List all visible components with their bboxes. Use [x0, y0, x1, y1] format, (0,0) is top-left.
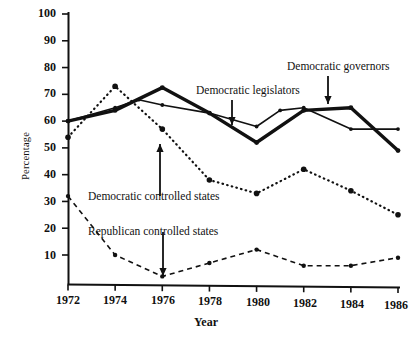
arrow-democratic-governors	[324, 76, 331, 104]
y-tick-label-10: 10	[44, 248, 56, 263]
annotation-democratic-governors: Democratic governors	[287, 60, 390, 72]
chart-plot-area	[0, 0, 415, 337]
y-tick-label-100: 100	[38, 6, 56, 21]
y-tick-label-30: 30	[44, 194, 56, 209]
y-tick-label-40: 40	[44, 167, 56, 182]
arrow-democratic-legislators	[228, 100, 235, 125]
y-tick-label-80: 80	[44, 60, 56, 75]
arrow-republican-controlled-states	[159, 232, 166, 276]
x-tick-label-1976: 1976	[151, 293, 175, 308]
y-tick-label-20: 20	[44, 221, 56, 236]
x-tick-label-1982: 1982	[293, 296, 317, 311]
x-tick-label-1972: 1972	[56, 293, 80, 308]
annotation-democratic-legislators: Democratic legislators	[196, 84, 300, 96]
chart-series-layer	[65, 84, 401, 279]
chart-annotation-arrows	[156, 76, 331, 276]
y-tick-label-60: 60	[44, 113, 56, 128]
chart-figure: Percentage Year 100 90 80 70 60 50 40 30…	[0, 0, 415, 337]
y-tick-label-70: 70	[44, 86, 56, 101]
y-axis-title: Percentage	[20, 132, 31, 180]
y-tick-label-90: 90	[44, 33, 56, 48]
annotation-republican-controlled-states: Republican controlled states	[88, 225, 218, 237]
x-axis-title: Year	[194, 315, 218, 330]
arrow-democratic-controlled-states	[156, 144, 163, 196]
x-tick-label-1986: 1986	[384, 298, 408, 313]
chart-axes	[62, 12, 400, 293]
x-tick-label-1978: 1978	[198, 294, 222, 309]
x-tick-label-1974: 1974	[103, 293, 127, 308]
y-tick-label-50: 50	[44, 140, 56, 155]
annotation-democratic-controlled-states: Democratic controlled states	[88, 190, 220, 202]
x-tick-label-1980: 1980	[246, 295, 270, 310]
x-tick-label-1984: 1984	[340, 297, 364, 312]
